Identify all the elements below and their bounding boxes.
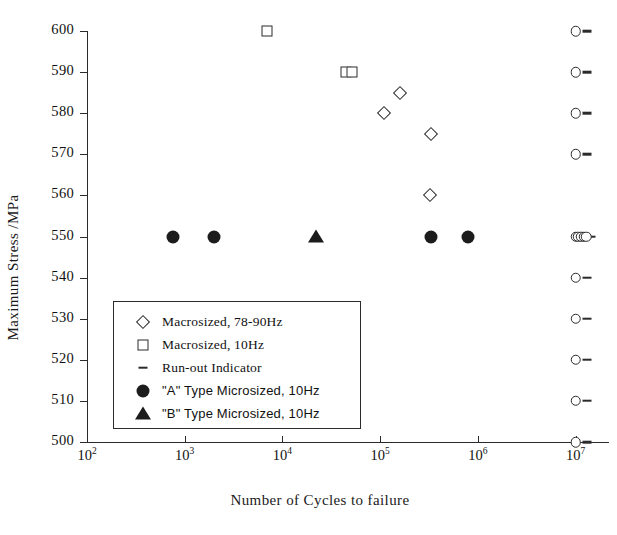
marker-open-diamond [136, 314, 150, 328]
marker-runout-dash [582, 317, 591, 320]
y-tick-label: 570 [28, 144, 74, 161]
marker-open-circle [570, 437, 581, 448]
legend-label: Macrosized, 10Hz [162, 337, 264, 353]
x-tick-label: 106 [448, 447, 508, 464]
y-tick-label: 600 [28, 21, 74, 38]
marker-filled-circle [424, 230, 437, 243]
marker-open-square [347, 67, 358, 78]
y-tick-label: 550 [28, 227, 74, 244]
marker-filled-triangle [135, 406, 151, 419]
x-axis-title: Number of Cycles to failure [90, 492, 550, 509]
y-tick-label: 510 [28, 391, 74, 408]
x-tick-label: 105 [350, 447, 410, 464]
marker-filled-circle [166, 230, 179, 243]
legend-label: "B" Type Microsized, 10Hz [162, 406, 320, 421]
marker-open-circle [570, 355, 581, 366]
marker-runout-dash [139, 366, 148, 369]
marker-open-diamond [377, 106, 391, 120]
marker-open-circle [570, 272, 581, 283]
legend-label: Run-out Indicator [162, 360, 262, 376]
legend-label: "A" Type Microsized, 10Hz [162, 383, 320, 398]
marker-open-circle [570, 26, 581, 37]
marker-runout-dash [582, 153, 591, 156]
legend-rows: Macrosized, 78-90HzMacrosized, 10HzRun-o… [114, 302, 360, 425]
marker-open-diamond [422, 188, 436, 202]
y-tick-label: 580 [28, 103, 74, 120]
x-tick-label: 107 [546, 447, 606, 464]
marker-open-circle [570, 149, 581, 160]
marker-runout-dash [582, 441, 591, 444]
marker-open-circle [570, 396, 581, 407]
marker-open-circle [570, 313, 581, 324]
y-tick-label: 540 [28, 268, 74, 285]
marker-open-square [262, 26, 273, 37]
y-tick-label: 520 [28, 350, 74, 367]
marker-open-circle [570, 108, 581, 119]
legend-box: Macrosized, 78-90HzMacrosized, 10HzRun-o… [113, 301, 361, 429]
y-tick-label: 590 [28, 62, 74, 79]
marker-open-circle [570, 67, 581, 78]
legend-item: Macrosized, 10Hz [124, 333, 360, 356]
legend-symbol [124, 356, 162, 379]
legend-item: "A" Type Microsized, 10Hz [124, 379, 360, 402]
y-tick-label: 560 [28, 185, 74, 202]
marker-open-circle [581, 231, 592, 242]
marker-runout-dash [582, 400, 591, 403]
marker-runout-dash [582, 71, 591, 74]
legend-symbol [124, 333, 162, 356]
marker-open-diamond [393, 86, 407, 100]
marker-open-diamond [424, 127, 438, 141]
marker-open-square [138, 339, 149, 350]
y-axis-title: Maximum Stress /MPa [0, 0, 26, 535]
x-tick-label: 102 [57, 447, 117, 464]
legend-item: "B" Type Microsized, 10Hz [124, 402, 360, 425]
chart-container: Maximum Stress /MPa 60059058057056055054… [0, 0, 617, 535]
x-tick-label: 103 [155, 447, 215, 464]
legend-item: Macrosized, 78-90Hz [124, 310, 360, 333]
legend-label: Macrosized, 78-90Hz [162, 314, 283, 330]
legend-item: Run-out Indicator [124, 356, 360, 379]
marker-filled-circle [137, 384, 150, 397]
legend-symbol [124, 402, 162, 425]
marker-filled-circle [462, 230, 475, 243]
x-tick-label: 104 [252, 447, 312, 464]
marker-filled-circle [208, 230, 221, 243]
legend-symbol [124, 379, 162, 402]
marker-filled-triangle [308, 229, 324, 242]
marker-runout-dash [582, 276, 591, 279]
y-tick-label: 530 [28, 309, 74, 326]
marker-runout-dash [582, 30, 591, 33]
marker-runout-dash [582, 359, 591, 362]
legend-symbol [124, 310, 162, 333]
marker-runout-dash [582, 112, 591, 115]
